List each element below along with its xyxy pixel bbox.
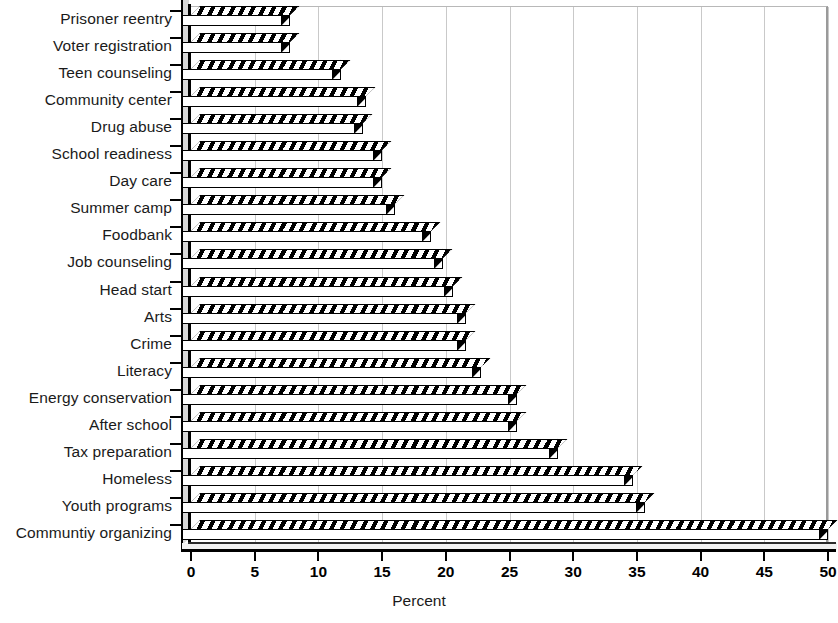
bar-front-face [182, 367, 481, 378]
gridline [828, 7, 829, 550]
category-label: Homeless [102, 471, 172, 487]
category-label: Communtiy organizing [16, 525, 172, 541]
bar [191, 141, 382, 162]
x-axis-tick-label: 50 [819, 563, 836, 581]
y-axis-tick [170, 281, 181, 283]
bar-top-face [191, 493, 654, 502]
category-label: Teen counseling [58, 65, 172, 81]
y-axis-tick [170, 416, 181, 418]
category-label: Day care [109, 174, 172, 190]
bar [191, 304, 466, 325]
bar [191, 520, 828, 541]
y-axis-tick [170, 226, 181, 228]
x-axis-tick [445, 552, 447, 561]
x-axis-tick-label: 5 [250, 563, 259, 581]
bar-top-face [191, 33, 300, 42]
y-axis-tick [170, 497, 181, 499]
bar-top-face [191, 277, 463, 286]
category-label: Foodbank [102, 228, 172, 244]
bar [191, 222, 431, 243]
y-axis-tick [170, 389, 181, 391]
x-axis-tick [509, 552, 511, 561]
x-axis-tick [572, 552, 574, 561]
x-axis-tick [700, 552, 702, 561]
bar-front-face [182, 394, 517, 405]
bar-front-face [182, 96, 366, 107]
y-axis-tick [170, 470, 181, 472]
x-axis-tick [827, 552, 829, 561]
category-label: Summer camp [70, 201, 172, 217]
bar-front-face [182, 231, 431, 242]
bar-top-face [191, 331, 475, 340]
bar-top-face [191, 195, 404, 204]
bar [191, 358, 481, 379]
bar-front-face [182, 502, 645, 513]
bar-front-face [182, 15, 290, 26]
bar-top-face [191, 222, 440, 231]
bar-top-face [191, 412, 526, 421]
bar-top-face [191, 249, 453, 258]
y-axis-tick [170, 199, 181, 201]
gridline [701, 7, 702, 550]
y-axis-tick [170, 118, 181, 120]
y-axis-tick [170, 308, 181, 310]
x-axis-tick [381, 552, 383, 561]
x-axis-top-line [188, 542, 836, 544]
category-label: Literacy [117, 363, 172, 379]
bar-chart: Prisoner reentryVoter registrationTeen c… [0, 0, 838, 623]
y-axis-tick [170, 253, 181, 255]
category-label: Head start [99, 282, 172, 298]
category-label: Crime [130, 336, 172, 352]
bar-front-face [182, 123, 363, 134]
bar [191, 87, 366, 108]
bar-top-face [191, 304, 475, 313]
bar [191, 466, 633, 487]
x-axis-tick [190, 552, 192, 561]
bar [191, 412, 517, 433]
bar-front-face [182, 204, 395, 215]
category-label: Job counseling [67, 255, 172, 271]
y-axis-tick [170, 91, 181, 93]
bar-top-face [191, 6, 300, 15]
bar [191, 195, 395, 216]
bar [191, 331, 466, 352]
bar-top-face [191, 439, 567, 448]
bar [191, 493, 645, 514]
bar-top-face [191, 141, 391, 150]
bar-front-face [182, 286, 453, 297]
x-axis-tick [636, 552, 638, 561]
bar-top-face [191, 520, 837, 529]
y-axis-tick [170, 335, 181, 337]
bar [191, 277, 453, 298]
bar [191, 33, 290, 54]
x-axis-title: Percent [0, 592, 838, 610]
x-axis-tick [763, 552, 765, 561]
bar-top-face [191, 87, 375, 96]
bar-front-face [182, 421, 517, 432]
bar-front-face [182, 69, 341, 80]
y-axis-tick [170, 145, 181, 147]
x-axis-tick-label: 25 [501, 563, 518, 581]
bar-front-face [182, 313, 466, 324]
bar [191, 439, 558, 460]
bar-top-face [191, 385, 526, 394]
y-axis-tick [170, 524, 181, 526]
bar [191, 60, 341, 81]
category-label: Drug abuse [91, 119, 172, 135]
y-axis-tick [170, 172, 181, 174]
bar-top-face [191, 60, 351, 69]
x-axis-tick [317, 552, 319, 561]
category-label: Voter registration [53, 38, 172, 54]
category-label: Youth programs [62, 498, 172, 514]
bar-front-face [182, 150, 382, 161]
y-axis-tick [170, 443, 181, 445]
y-axis-tick [170, 10, 181, 12]
bar-top-face [191, 466, 642, 475]
category-label: Community center [45, 92, 172, 108]
bar-front-face [182, 475, 633, 486]
x-axis-tick-label: 35 [628, 563, 645, 581]
y-axis-tick [170, 37, 181, 39]
bar [191, 6, 290, 27]
y-axis-back-line [181, 0, 183, 544]
bar [191, 168, 382, 189]
